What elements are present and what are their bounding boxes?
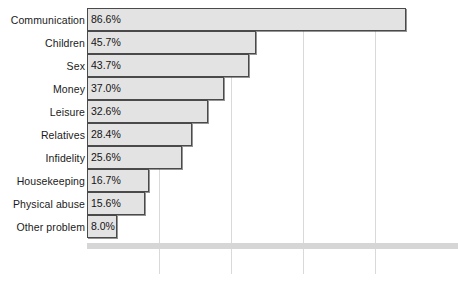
bar-value-label: 32.6% [91,100,121,123]
category-label: Physical abuse [0,198,85,210]
bar-row-infidelity: Infidelity 25.6% [0,146,458,169]
bar-value-label: 37.0% [91,77,121,100]
category-label: Leisure [0,106,85,118]
bar-row-communication: Communication 86.6% [0,8,458,31]
category-label: Children [0,37,85,49]
bar-track: 43.7% [87,54,458,77]
bar-row-sex: Sex 43.7% [0,54,458,77]
bar-row-housekeeping: Housekeeping 16.7% [0,169,458,192]
bar-track: 32.6% [87,100,458,123]
bar-row-other-problem: Other problem 8.0% [0,215,458,238]
category-label: Other problem [0,221,85,233]
bar-value-label: 28.4% [91,123,121,146]
bar-value-label: 86.6% [91,8,121,31]
bar [87,8,406,31]
bar-track: 25.6% [87,146,458,169]
bar-track: 86.6% [87,8,458,31]
category-label: Relatives [0,129,85,141]
bar-value-label: 15.6% [91,192,121,215]
bar-rows: Communication 86.6% Children 45.7% Sex 4… [0,8,458,238]
category-label: Sex [0,60,85,72]
bar-track: 45.7% [87,31,458,54]
category-label: Communication [0,14,85,26]
bar-value-label: 25.6% [91,146,121,169]
bar-row-children: Children 45.7% [0,31,458,54]
bar-row-money: Money 37.0% [0,77,458,100]
bar-value-label: 43.7% [91,54,121,77]
category-label: Money [0,83,85,95]
bar-row-physical-abuse: Physical abuse 15.6% [0,192,458,215]
bar-track: 15.6% [87,192,458,215]
bar-value-label: 45.7% [91,31,121,54]
bar-track: 8.0% [87,215,458,238]
category-label: Housekeeping [0,175,85,187]
bar-track: 28.4% [87,123,458,146]
bar-value-label: 8.0% [91,215,115,238]
bar-row-leisure: Leisure 32.6% [0,100,458,123]
x-axis-band [87,243,458,249]
bar-value-label: 16.7% [91,169,121,192]
bar-chart: Communication 86.6% Children 45.7% Sex 4… [0,0,458,282]
bar-track: 16.7% [87,169,458,192]
bar-track: 37.0% [87,77,458,100]
bar-row-relatives: Relatives 28.4% [0,123,458,146]
category-label: Infidelity [0,152,85,164]
